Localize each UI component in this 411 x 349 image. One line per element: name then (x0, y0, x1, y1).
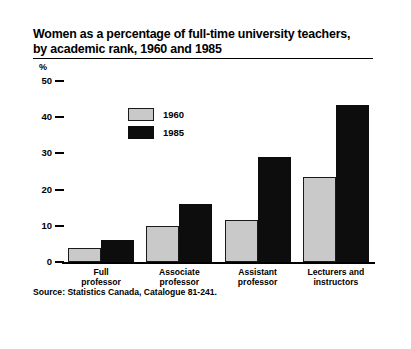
plot-area: % 01020304050 FullprofessorAssociateprof… (22, 22, 389, 327)
y-tick-label-20: 20 (30, 184, 52, 195)
y-tick-mark-50 (55, 80, 64, 82)
y-tick-label-50: 50 (30, 75, 52, 86)
decorative-border-right (389, 22, 411, 327)
legend-swatch-1960 (128, 108, 154, 121)
category-label-2: Assistantprofessor (213, 267, 303, 287)
y-tick-mark-30 (55, 152, 64, 154)
y-tick-label-0: 0 (30, 256, 52, 267)
bar-1985-full-professor (101, 240, 134, 262)
category-label-3: Lecturers andinstructors (291, 267, 381, 287)
bar-1985-assistant-professor (258, 157, 291, 262)
legend-item-1985: 1985 (128, 126, 184, 139)
bar-1960-lecturers-and-instructors (303, 177, 336, 262)
legend-label-1985: 1985 (163, 127, 184, 138)
legend-label-1960: 1960 (163, 109, 184, 120)
bar-1985-lecturers-and-instructors (336, 105, 369, 262)
x-axis-baseline (62, 262, 375, 264)
category-label-1: Associateprofessor (134, 267, 224, 287)
chart-card: Women as a percentage of full-time unive… (22, 22, 389, 327)
chart-figure: Women as a percentage of full-time unive… (0, 0, 411, 349)
bar-1960-full-professor (68, 248, 101, 262)
y-tick-label-10: 10 (30, 220, 52, 231)
decorative-border-top (0, 0, 411, 22)
source-note: Source: Statistics Canada, Catalogue 81-… (33, 287, 217, 297)
y-tick-mark-40 (55, 116, 64, 118)
chart-legend: 19601985 (128, 108, 184, 144)
y-tick-mark-10 (55, 225, 64, 227)
bar-1960-associate-professor (146, 226, 179, 262)
legend-item-1960: 1960 (128, 108, 184, 121)
y-axis-unit-label: % (39, 62, 47, 72)
y-tick-label-30: 30 (30, 147, 52, 158)
decorative-border-bottom (0, 327, 411, 349)
y-tick-mark-20 (55, 189, 64, 191)
y-tick-label-40: 40 (30, 111, 52, 122)
bar-1960-assistant-professor (225, 220, 258, 262)
legend-swatch-1985 (128, 126, 154, 139)
category-label-0: Fullprofessor (56, 267, 146, 287)
decorative-border-left (0, 22, 22, 327)
bar-1985-associate-professor (179, 204, 212, 262)
